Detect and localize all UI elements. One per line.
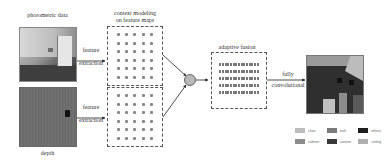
fusion-row xyxy=(212,77,266,80)
legend-swatch xyxy=(295,139,305,144)
legend-label: wall xyxy=(340,129,346,133)
rgb-input-label: photometric data xyxy=(10,12,85,19)
adaptive-fusion-title: adaptive fusion xyxy=(205,44,269,51)
feature-column xyxy=(114,33,122,79)
legend-item-cabinet: cabinet xyxy=(295,139,327,144)
legend-label: cabinet xyxy=(308,140,319,144)
context-feature-map-bottom xyxy=(107,87,163,147)
segmentation-output xyxy=(306,55,364,114)
depth-image xyxy=(19,87,77,147)
rgb-image xyxy=(19,27,77,82)
fusion-row xyxy=(212,91,266,94)
fusion-node xyxy=(184,74,196,86)
fully-convolutional-label: fully convolutional xyxy=(268,71,308,89)
feature-column xyxy=(122,94,130,140)
feature-column xyxy=(148,33,156,79)
context-feature-map-top xyxy=(107,26,163,86)
fusion-row xyxy=(212,70,266,73)
legend-item-chair: chair xyxy=(295,128,327,133)
feature-column xyxy=(131,33,139,79)
legend-label: ceiling xyxy=(371,140,381,144)
feature-column xyxy=(131,94,139,140)
context-modeling-title: context modeling on feature maps xyxy=(100,10,170,24)
feature-column xyxy=(139,94,147,140)
feature-extraction-label-top: feature extraction xyxy=(76,47,106,67)
legend-swatch xyxy=(295,128,305,133)
legend-swatch xyxy=(358,128,368,133)
fusion-row xyxy=(212,63,266,66)
legend-swatch xyxy=(327,128,337,133)
legend-label: counter xyxy=(340,140,352,144)
legend-item-others: others xyxy=(358,128,390,133)
legend: chairwallotherscabinetcounterceiling xyxy=(295,128,390,144)
legend-label: others xyxy=(371,129,381,133)
fusion-row xyxy=(212,84,266,87)
feature-column xyxy=(139,33,147,79)
depth-input-label: depth xyxy=(10,150,85,157)
adaptive-fusion-box xyxy=(211,52,267,109)
legend-item-ceiling: ceiling xyxy=(358,139,390,144)
legend-item-counter: counter xyxy=(327,139,359,144)
feature-column xyxy=(114,94,122,140)
legend-swatch xyxy=(327,139,337,144)
legend-item-wall: wall xyxy=(327,128,359,133)
legend-swatch xyxy=(358,139,368,144)
feature-extraction-label-bottom: feature extraction xyxy=(76,104,106,124)
legend-label: chair xyxy=(308,129,316,133)
feature-column xyxy=(148,94,156,140)
feature-column xyxy=(122,33,130,79)
